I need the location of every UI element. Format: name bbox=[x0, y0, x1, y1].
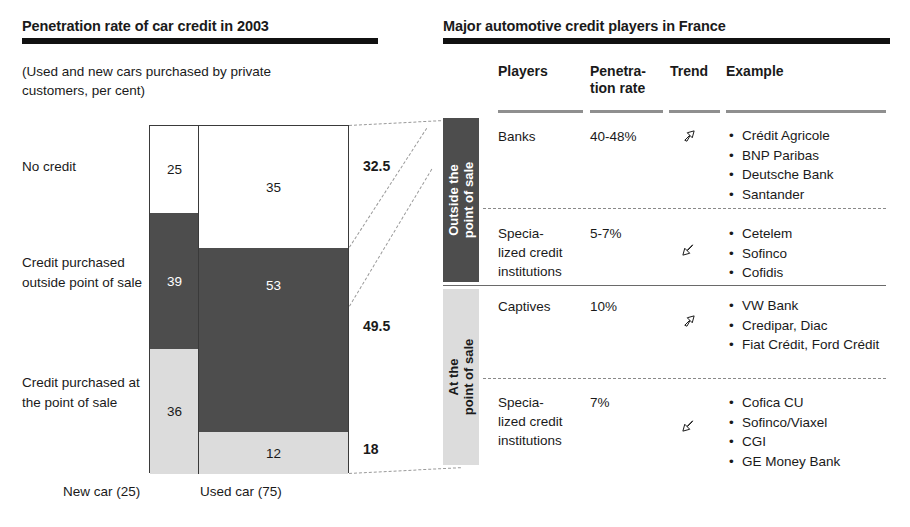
list-item: Sofinco bbox=[729, 244, 792, 264]
column-header-rule-example bbox=[726, 110, 886, 113]
group-band-label: At the point of sale bbox=[446, 339, 476, 416]
chart-cell-newcar-outside-pos: 39 bbox=[150, 213, 199, 349]
list-item: Credipar, Diac bbox=[729, 316, 889, 336]
table-row-specialized-atpos-rate: 7% bbox=[590, 393, 610, 412]
marimekko-chart: 25 39 36 35 53 12 bbox=[149, 125, 349, 473]
chart-cell-value: 53 bbox=[266, 278, 281, 293]
chart-cell-value: 12 bbox=[266, 446, 281, 461]
table-row-captives-examples: VW Bank Credipar, Diac Fiat Crédit, Ford… bbox=[729, 296, 889, 355]
chart-cell-usedcar-at-pos: 12 bbox=[199, 432, 348, 474]
column-header-trend: Trend bbox=[670, 63, 708, 80]
chart-column-divider bbox=[198, 126, 199, 474]
chart-axis-label-new-car: New car (25) bbox=[63, 484, 140, 499]
left-panel-title: Penetration rate of car credit in 2003 bbox=[22, 18, 269, 34]
table-row-banks-examples: Crédit Agricole BNP Paribas Deutsche Ban… bbox=[729, 126, 834, 204]
chart-row-label-no-credit: No credit bbox=[22, 157, 147, 177]
column-header-rule-trend bbox=[669, 110, 720, 113]
chart-cell-value: 39 bbox=[167, 274, 182, 289]
connector-lower-bottom bbox=[349, 467, 461, 474]
column-header-penetration-rate-line2: tion rate bbox=[590, 80, 670, 97]
player-line3: institutions bbox=[498, 262, 586, 281]
chart-cell-newcar-no-credit: 25 bbox=[150, 126, 199, 213]
group-band-label-line2: point of sale bbox=[461, 162, 476, 239]
column-header-penetration-rate-line1: Penetra- bbox=[590, 63, 670, 80]
table-row-specialized-outside-rate: 5-7% bbox=[590, 224, 622, 243]
chart-cell-value: 35 bbox=[266, 180, 281, 195]
chart-cell-value: 25 bbox=[167, 162, 182, 177]
player-line3: institutions bbox=[498, 431, 586, 450]
list-item: Cetelem bbox=[729, 224, 792, 244]
chart-row-label-outside-pos: Credit purchased outside point of sale bbox=[22, 253, 147, 292]
group-band-outside-point-of-sale: Outside the point of sale bbox=[443, 118, 479, 282]
list-item: Crédit Agricole bbox=[729, 126, 834, 146]
list-item: BNP Paribas bbox=[729, 146, 834, 166]
up-right-arrow-icon bbox=[681, 129, 696, 144]
list-item: CGI bbox=[729, 432, 840, 452]
chart-axis-label-used-car: Used car (75) bbox=[200, 484, 282, 499]
table-row-specialized-atpos-player: Specia- lized credit institutions bbox=[498, 393, 586, 450]
down-left-arrow-icon bbox=[681, 418, 696, 433]
connector-upper-bottom bbox=[349, 128, 427, 248]
group-band-label-line2: point of sale bbox=[461, 339, 476, 416]
group-band-label-line1: Outside the bbox=[446, 162, 461, 239]
table-row-captives-player: Captives bbox=[498, 297, 551, 316]
column-header-rule-players bbox=[498, 110, 583, 113]
list-item: Deutsche Bank bbox=[729, 165, 834, 185]
chart-cell-newcar-at-pos: 36 bbox=[150, 349, 199, 474]
list-item: Cofidis bbox=[729, 263, 792, 283]
table-row-separator bbox=[483, 378, 886, 379]
player-line2: lized credit bbox=[498, 243, 586, 262]
table-row-specialized-atpos-examples: Cofica CU Sofinco/Viaxel CGI GE Money Ba… bbox=[729, 393, 840, 471]
right-panel-title: Major automotive credit players in Franc… bbox=[443, 18, 726, 34]
player-line2: lized credit bbox=[498, 412, 586, 431]
list-item: GE Money Bank bbox=[729, 452, 840, 472]
right-panel-title-rule bbox=[443, 38, 890, 44]
group-band-label: Outside the point of sale bbox=[446, 162, 476, 239]
list-item: Fiat Crédit, Ford Crédit bbox=[729, 335, 889, 355]
left-panel-title-rule bbox=[22, 38, 378, 44]
table-row-banks-rate: 40-48% bbox=[590, 127, 637, 146]
column-header-example: Example bbox=[726, 63, 784, 80]
chart-cell-usedcar-no-credit: 35 bbox=[199, 126, 348, 248]
chart-total-no-credit: 32.5 bbox=[363, 158, 390, 174]
table-row-specialized-outside-player: Specia- lized credit institutions bbox=[498, 224, 586, 281]
column-header-rule-rate bbox=[590, 110, 663, 113]
table-row-captives-rate: 10% bbox=[590, 297, 617, 316]
player-line1: Specia- bbox=[498, 393, 586, 412]
list-item: Santander bbox=[729, 185, 834, 205]
list-item: Sofinco/Viaxel bbox=[729, 413, 840, 433]
player-line1: Specia- bbox=[498, 224, 586, 243]
chart-total-at-pos: 18 bbox=[363, 441, 379, 457]
chart-cell-usedcar-outside-pos: 53 bbox=[199, 248, 348, 432]
table-row-banks-player: Banks bbox=[498, 127, 536, 146]
table-row-specialized-outside-examples: Cetelem Sofinco Cofidis bbox=[729, 224, 792, 283]
table-group-separator bbox=[443, 285, 886, 286]
list-item: Cofica CU bbox=[729, 393, 840, 413]
up-right-arrow-icon bbox=[681, 314, 696, 329]
chart-row-label-at-pos: Credit purchased at the point of sale bbox=[22, 373, 147, 412]
down-left-arrow-icon bbox=[681, 242, 696, 257]
chart-cell-value: 36 bbox=[167, 404, 182, 419]
column-header-penetration-rate: Penetra- tion rate bbox=[590, 63, 670, 97]
list-item: VW Bank bbox=[729, 296, 889, 316]
chart-total-outside-pos: 49.5 bbox=[363, 318, 390, 334]
group-band-at-point-of-sale: At the point of sale bbox=[443, 289, 479, 465]
connector-lower-top bbox=[349, 169, 432, 307]
table-row-separator bbox=[483, 208, 886, 209]
column-header-players: Players bbox=[498, 63, 548, 80]
left-panel-subtitle: (Used and new cars purchased by private … bbox=[22, 62, 322, 100]
group-band-label-line1: At the bbox=[446, 339, 461, 416]
